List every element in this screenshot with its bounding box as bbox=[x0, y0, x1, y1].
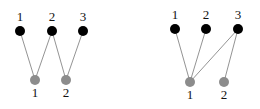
right-graph-top-label-3: 3 bbox=[235, 7, 242, 22]
left-graph-top-label-1: 1 bbox=[17, 9, 24, 24]
left-graph-top-node-2 bbox=[47, 26, 57, 36]
right-graph-bottom-node-2 bbox=[219, 77, 229, 87]
bipartite-graphs-diagram: 1231212312 bbox=[0, 0, 260, 109]
right-graph-top-label-1: 1 bbox=[172, 7, 179, 22]
right-graph-edge-1-1 bbox=[175, 29, 190, 82]
right-graph-bottom-label-2: 2 bbox=[221, 87, 228, 102]
left-graph-top-node-1 bbox=[15, 26, 25, 36]
edges bbox=[20, 29, 238, 82]
right-graph-bottom-label-1: 1 bbox=[187, 87, 194, 102]
left-graph-top-node-3 bbox=[78, 26, 88, 36]
left-graph-edge-1-1 bbox=[20, 31, 35, 80]
left-graph-top-label-2: 2 bbox=[49, 9, 56, 24]
right-graph-edge-2-1 bbox=[190, 29, 206, 82]
right-graph-top-node-2 bbox=[201, 24, 211, 34]
left-graph-edge-2-2 bbox=[52, 31, 66, 80]
left-graph-bottom-label-2: 2 bbox=[63, 85, 70, 100]
right-graph-bottom-node-1 bbox=[185, 77, 195, 87]
right-graph-top-node-1 bbox=[170, 24, 180, 34]
left-graph-bottom-label-1: 1 bbox=[32, 85, 39, 100]
left-graph-edge-2-1 bbox=[35, 31, 52, 80]
left-graph-top-label-3: 3 bbox=[80, 9, 87, 24]
right-graph-top-label-2: 2 bbox=[203, 7, 210, 22]
left-graph-bottom-node-1 bbox=[30, 75, 40, 85]
right-graph-top-node-3 bbox=[233, 24, 243, 34]
nodes bbox=[15, 24, 243, 87]
labels: 1231212312 bbox=[17, 7, 242, 102]
left-graph-edge-3-2 bbox=[66, 31, 83, 80]
left-graph-bottom-node-2 bbox=[61, 75, 71, 85]
